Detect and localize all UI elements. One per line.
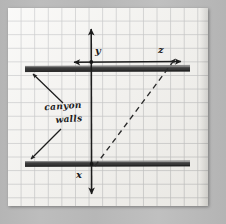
callout-arrow-lower xyxy=(31,129,61,159)
z-axis-label: z xyxy=(158,45,164,55)
screenshot-root: y z x canyon walls xyxy=(0,0,226,224)
x-axis-reference-dot xyxy=(90,162,94,166)
origin-dot xyxy=(89,60,93,64)
z-axis-dashed-line xyxy=(95,59,175,166)
callout-arrow-upper xyxy=(33,74,63,103)
lower-canyon-wall xyxy=(25,161,190,167)
upper-canyon-wall xyxy=(25,65,190,71)
x-axis-label: x xyxy=(76,170,82,180)
y-axis-label: y xyxy=(95,46,101,56)
